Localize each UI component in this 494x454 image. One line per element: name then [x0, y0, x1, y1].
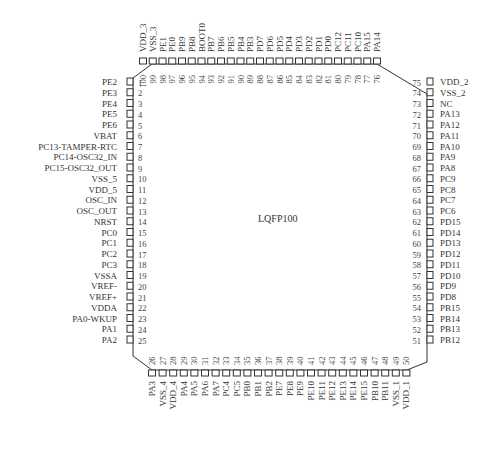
pin-pad: [127, 229, 133, 236]
pin-number: 89: [245, 75, 255, 84]
pin-number: 13: [138, 207, 147, 217]
pin-number: 11: [138, 185, 146, 195]
pin-number: 70: [413, 131, 422, 141]
pin-number: 69: [413, 142, 422, 152]
pin-label: PB6: [216, 36, 226, 52]
pin-pad: [297, 370, 304, 376]
pin-label: VDD_2: [440, 77, 469, 87]
pin-pad: [325, 58, 332, 64]
pin-number: 58: [413, 260, 422, 270]
pin-label: PA9: [440, 152, 456, 162]
pin-pad: [305, 58, 312, 64]
pin-number: 91: [226, 75, 236, 84]
pin-number: 18: [138, 260, 147, 270]
pin-pad: [392, 370, 399, 376]
pin-label: PC7: [440, 195, 456, 205]
pin-label: PB8: [187, 36, 197, 52]
pin-pad: [202, 370, 209, 376]
pin-label: PD13: [440, 238, 461, 248]
pin-number: 66: [413, 174, 422, 184]
pin-pad: [127, 336, 133, 343]
pin-label: PC1: [101, 238, 117, 248]
pin-number: 31: [200, 357, 210, 366]
pin-pad: [354, 58, 361, 64]
pin-pad: [427, 121, 433, 128]
pin-pad: [350, 370, 357, 376]
pin-pad: [286, 370, 293, 376]
pin-number: 79: [343, 75, 353, 84]
pin-pad: [329, 370, 336, 376]
pin-number: 98: [158, 75, 168, 84]
pin-number: 14: [138, 217, 147, 227]
pin-pad: [427, 218, 433, 225]
pin-pad: [169, 58, 176, 64]
pin-pad: [127, 143, 133, 150]
pin-label: PA12: [440, 120, 460, 130]
pin-label: VDD_4: [168, 381, 178, 410]
pin-label: PA3: [147, 381, 157, 397]
pin-label: PA15: [362, 32, 372, 52]
pin-pad: [191, 370, 198, 376]
pin-label: PA7: [211, 381, 221, 397]
pin-label: VDD_1: [401, 381, 411, 410]
pin-pad: [159, 58, 166, 64]
pin-pad: [127, 304, 133, 311]
pin-pad: [127, 89, 133, 96]
pin-label: PC9: [440, 174, 456, 184]
pin-label: PE9: [295, 381, 305, 397]
pin-label: PE5: [102, 109, 118, 119]
pin-pad: [371, 370, 378, 376]
pin-pad: [247, 58, 254, 64]
pin-number: 88: [255, 75, 265, 84]
pin-label: PC15-OSC32_OUT: [44, 163, 117, 173]
pin-number: 93: [206, 75, 216, 84]
package-name: LQFP100: [258, 213, 297, 224]
pin-label: PB2: [264, 381, 274, 397]
pin-number: 67: [413, 164, 422, 174]
pin-number: 36: [253, 357, 263, 366]
pin-pad: [276, 58, 283, 64]
pin-pad: [198, 58, 205, 64]
pin-pad: [127, 100, 133, 107]
pin-label: PE7: [274, 381, 284, 397]
pin-label: VDD_3: [138, 23, 148, 52]
pin-pad: [296, 58, 303, 64]
pin-number: 41: [306, 357, 316, 366]
pin-pad: [361, 370, 368, 376]
pin-pad: [427, 153, 433, 160]
pin-number: 85: [284, 75, 294, 84]
pin-number: 57: [413, 271, 422, 281]
pin-number: 90: [236, 75, 246, 84]
pin-pad: [255, 370, 262, 376]
pin-number: 82: [314, 75, 324, 84]
pin-label: PA2: [102, 335, 117, 345]
pin-pad: [427, 78, 433, 85]
pin-pad: [427, 315, 433, 322]
pin-label: PC0: [101, 228, 117, 238]
pin-number: 94: [197, 74, 207, 83]
pin-pad: [127, 132, 133, 139]
pin-label: PC8: [440, 185, 456, 195]
pin-number: 59: [413, 250, 422, 260]
pin-label: PC12: [333, 32, 343, 52]
pin-number: 28: [168, 357, 178, 366]
pin-number: 16: [138, 239, 147, 249]
pin-label: PD15: [440, 217, 461, 227]
pin-label: PA5: [189, 381, 199, 397]
pin-number: 26: [147, 357, 157, 366]
pin-number: 15: [138, 228, 147, 238]
pin-pad: [127, 175, 133, 182]
pin-number: 19: [138, 271, 147, 281]
pin-number: 34: [232, 356, 242, 365]
pin-label: PE14: [348, 381, 358, 401]
pin-label: PD1: [314, 36, 324, 52]
pin-number: 25: [138, 336, 147, 346]
pin-number: 9: [138, 164, 142, 174]
pin-label: PD14: [440, 228, 461, 238]
pin-label: PE13: [338, 381, 348, 401]
pin-number: 5: [138, 121, 142, 131]
pin-label: PB13: [440, 324, 461, 334]
pin-pad: [127, 207, 133, 214]
pin-label: PE10: [306, 381, 316, 401]
pin-number: 21: [138, 293, 147, 303]
